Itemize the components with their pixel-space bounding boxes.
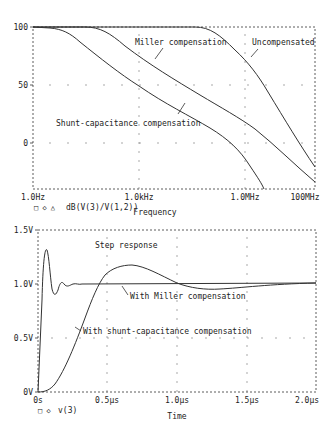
x-tick-1hz: 1.0Hz [21, 193, 45, 202]
y-tick-50: 50 [18, 81, 28, 90]
annotation-uncompensated: Uncompensated [252, 38, 315, 47]
curve-miller-step [38, 250, 316, 392]
x-tick-2.0us: 2.0µs [295, 396, 319, 405]
legend-trace-label: v(3) [58, 406, 77, 415]
y-tick-0: 0 [23, 139, 28, 148]
curve-miller [33, 27, 315, 182]
annotation-miller: With Miller compensation [130, 292, 246, 301]
bode-grid [50, 35, 303, 189]
annotation-shunt: With shunt-capacitance compensation [83, 327, 252, 336]
step-plot-frame [38, 230, 316, 392]
curve-shunt [33, 27, 264, 189]
annotation-miller: Miller compensation [135, 38, 227, 47]
y-tick-0.5v: 0.5V [14, 334, 33, 343]
x-tick-1.0us: 1.0µs [165, 396, 189, 405]
y-tick-0v: 0V [23, 388, 33, 397]
x-tick-0.5us: 0.5µs [95, 396, 119, 405]
x-tick-1khz: 1.0kHz [125, 193, 154, 202]
step-plot: 1.5V 1.0V 0.5V 0V 0s 0.5µs 1.0µs 1.5µs 2… [14, 226, 319, 421]
annotation-shunt: Shunt-capacitance compensation [56, 119, 201, 128]
x-axis-label: Time [167, 412, 186, 421]
curve-uncompensated [33, 27, 315, 167]
chart-canvas: 100 50 0 1.0Hz 1.0kHz 1.0MHz 100MHz □ ◇ … [0, 0, 332, 445]
x-tick-0s: 0s [33, 396, 43, 405]
legend-markers: □ ◇ △ [34, 204, 56, 212]
y-tick-100: 100 [14, 23, 29, 32]
legend-trace-label: dB(V(3)/V(1,2)) [66, 203, 138, 212]
y-tick-1.5v: 1.5V [14, 226, 33, 235]
legend-markers: □ ◇ [38, 407, 51, 415]
bode-plot: 100 50 0 1.0Hz 1.0kHz 1.0MHz 100MHz □ ◇ … [14, 23, 320, 217]
x-tick-1mhz: 1.0MHz [231, 193, 260, 202]
x-axis-label: Frequency [133, 208, 177, 217]
annotation-title: Step response [95, 241, 158, 250]
x-tick-1.5us: 1.5µs [235, 396, 259, 405]
x-tick-100mhz: 100MHz [291, 193, 320, 202]
y-tick-1.0v: 1.0V [14, 280, 33, 289]
